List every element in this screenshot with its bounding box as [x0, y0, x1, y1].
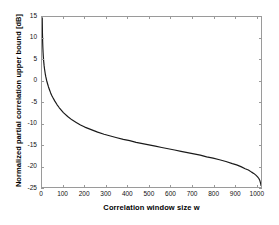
y-axis-title: Normalized partial correlation upper bou… — [14, 11, 23, 191]
x-tick-mark-top — [235, 16, 236, 19]
y-tick-mark-right — [259, 145, 262, 146]
y-tick-mark-right — [259, 16, 262, 17]
x-tick-mark-top — [192, 16, 193, 19]
y-tick-mark-right — [259, 167, 262, 168]
x-tick-mark-top — [127, 16, 128, 19]
x-tick-mark — [149, 185, 150, 188]
y-tick-mark — [41, 145, 44, 146]
data-series-line — [42, 18, 261, 185]
x-axis-title: Correlation window size w — [41, 203, 262, 212]
x-tick-mark-top — [41, 16, 42, 19]
x-tick-mark — [127, 185, 128, 188]
curve-svg — [42, 17, 261, 187]
y-tick-mark — [41, 124, 44, 125]
y-tick-mark-right — [259, 81, 262, 82]
x-tick-mark-top — [214, 16, 215, 19]
x-tick-mark — [63, 185, 64, 188]
x-tick-mark-top — [170, 16, 171, 19]
y-tick-mark-right — [259, 124, 262, 125]
y-tick-mark — [41, 81, 44, 82]
plot-area — [41, 16, 262, 188]
x-tick-label: 1000 — [242, 191, 272, 198]
x-tick-mark — [170, 185, 171, 188]
y-tick-mark — [41, 38, 44, 39]
x-tick-mark — [106, 185, 107, 188]
y-tick-mark-right — [259, 102, 262, 103]
y-tick-mark — [41, 102, 44, 103]
x-tick-mark — [257, 185, 258, 188]
chart-figure: 151050-5-10-15-20-25 0100200300400500600… — [0, 0, 279, 225]
y-tick-mark-right — [259, 188, 262, 189]
x-tick-mark — [235, 185, 236, 188]
x-tick-mark-top — [149, 16, 150, 19]
x-tick-mark-top — [106, 16, 107, 19]
y-tick-mark-right — [259, 59, 262, 60]
x-tick-mark-top — [63, 16, 64, 19]
y-tick-mark — [41, 59, 44, 60]
x-tick-mark-top — [84, 16, 85, 19]
x-tick-mark — [192, 185, 193, 188]
x-tick-mark — [214, 185, 215, 188]
y-tick-mark-right — [259, 38, 262, 39]
y-tick-mark — [41, 188, 44, 189]
x-tick-mark — [41, 185, 42, 188]
x-tick-mark — [84, 185, 85, 188]
x-tick-mark-top — [257, 16, 258, 19]
y-tick-mark — [41, 167, 44, 168]
